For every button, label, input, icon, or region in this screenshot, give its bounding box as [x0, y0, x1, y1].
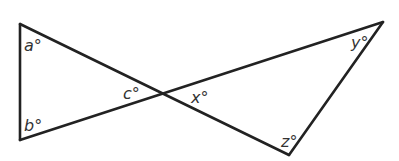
angle-label-c: c°: [123, 84, 140, 103]
angle-diagram: a° b° c° x° y° z°: [0, 0, 399, 161]
angle-label-z: z°: [280, 132, 297, 151]
angle-label-b: b°: [24, 116, 42, 135]
crossing-line-2: [20, 22, 383, 140]
right-side: [289, 22, 383, 155]
crossing-line-1: [20, 24, 289, 155]
angle-label-a: a°: [24, 36, 42, 55]
angle-label-y: y°: [350, 33, 368, 52]
angle-label-x: x°: [190, 88, 208, 107]
